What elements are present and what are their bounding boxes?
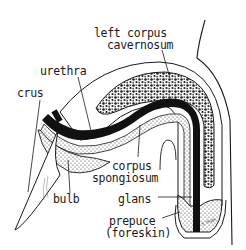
label-cavernosum: cavernosum (107, 39, 173, 51)
label-glans: glans (118, 193, 151, 205)
anatomy-diagram: left corpus cavernosum urethra crus corp… (0, 0, 246, 250)
label-urethra: urethra (40, 65, 86, 77)
label-crus: crus (17, 87, 44, 99)
label-spongiosum: spongiosum (92, 172, 158, 184)
label-bulb: bulb (53, 193, 80, 205)
label-foreskin: (foreskin) (105, 227, 171, 239)
